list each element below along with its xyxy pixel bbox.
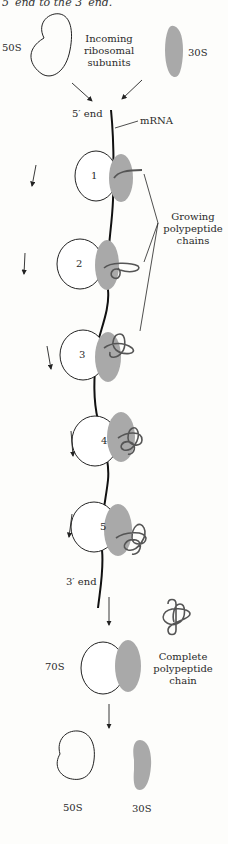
complete-line-1: Complete bbox=[150, 651, 216, 663]
complete-line-3: chain bbox=[150, 675, 216, 687]
incoming-line-1: Incoming bbox=[82, 33, 136, 45]
complete-polypeptide-label: Complete polypeptide chain bbox=[150, 651, 216, 687]
incoming-subunits-label: Incoming ribosomal subunits bbox=[82, 33, 136, 69]
released-30s-subunit bbox=[133, 740, 151, 790]
top-50s-label: 50S bbox=[2, 42, 22, 54]
bottom-30s-label: 30S bbox=[132, 803, 152, 815]
arrow-50s-in bbox=[72, 83, 92, 101]
ribosome-1 bbox=[75, 151, 142, 202]
arrow-30s-in bbox=[122, 80, 142, 99]
70s-label: 70S bbox=[45, 661, 65, 673]
arrow-down-3 bbox=[47, 346, 51, 369]
incoming-50s-subunit bbox=[31, 14, 72, 76]
released-50s-subunit bbox=[57, 731, 94, 779]
ribosome-2 bbox=[57, 239, 139, 290]
arrow-down-2 bbox=[24, 253, 25, 274]
incoming-line-3: subunits bbox=[82, 57, 136, 69]
ribosome-1-number: 1 bbox=[91, 170, 97, 182]
top-30s-label: 30S bbox=[188, 47, 208, 59]
mrna-pointer-line bbox=[115, 121, 138, 128]
ribosome-3-number: 3 bbox=[79, 349, 85, 361]
mrna-label: mRNA bbox=[140, 115, 173, 127]
ribosome-70s bbox=[81, 640, 141, 694]
growing-line-2: polypeptide bbox=[160, 223, 226, 235]
growing-pointer-lines bbox=[140, 174, 158, 331]
complete-polypeptide-icon bbox=[163, 600, 190, 635]
arrow-down-1 bbox=[32, 165, 36, 186]
translation-diagram bbox=[0, 0, 228, 844]
three-prime-end-label: 3′ end bbox=[66, 576, 97, 588]
ribosome-2-number: 2 bbox=[76, 258, 82, 270]
ribosome-3 bbox=[60, 330, 133, 382]
ribosome-5-number: 5 bbox=[100, 521, 106, 533]
incoming-line-2: ribosomal bbox=[82, 45, 136, 57]
complete-line-2: polypeptide bbox=[150, 663, 216, 675]
five-prime-end-label: 5′ end bbox=[72, 108, 103, 120]
incoming-30s-subunit bbox=[165, 26, 183, 77]
ribosome-5 bbox=[71, 502, 146, 556]
growing-line-1: Growing bbox=[160, 211, 226, 223]
bottom-50s-label: 50S bbox=[63, 802, 83, 814]
growing-line-3: chains bbox=[160, 235, 226, 247]
ribosome-4-number: 4 bbox=[101, 435, 107, 447]
growing-polypeptide-label: Growing polypeptide chains bbox=[160, 211, 226, 247]
